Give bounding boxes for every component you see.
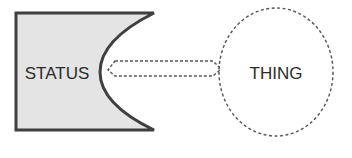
dashed-double-arrow xyxy=(108,61,220,76)
status-label: STATUS xyxy=(25,64,90,83)
diagram-canvas: STATUS THING xyxy=(0,0,352,158)
thing-label: THING xyxy=(250,64,303,83)
status-shape: STATUS xyxy=(16,13,154,130)
thing-shape: THING xyxy=(219,8,333,136)
